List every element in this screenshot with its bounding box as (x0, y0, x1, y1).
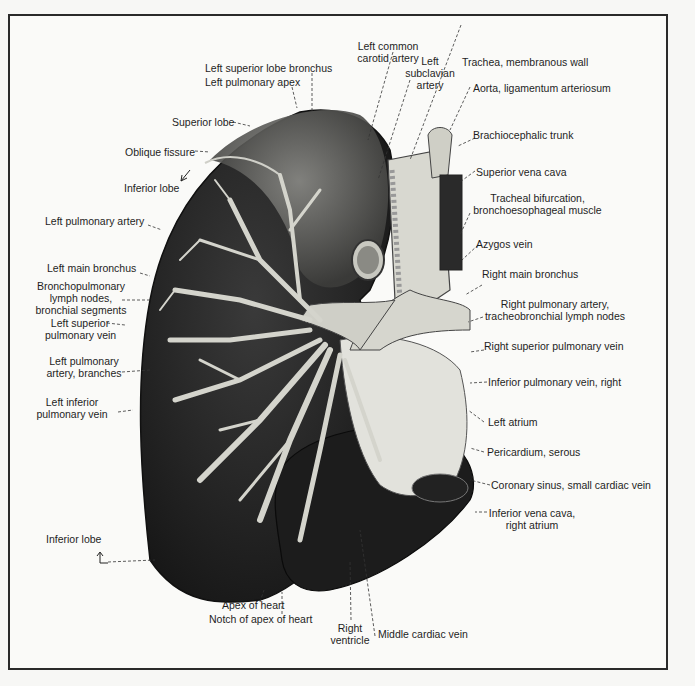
label-brachiocephalic-trunk: Brachiocephalic trunk (473, 129, 573, 141)
label-left-atrium: Left atrium (488, 416, 538, 428)
arrow-icon (97, 552, 108, 563)
label-inferior-lobe-bottom: Inferior lobe (46, 533, 101, 545)
brachiocephalic-trunk (428, 128, 452, 179)
label-line: Left pulmonary (44, 355, 124, 367)
label-line: bronchial segments (35, 304, 127, 316)
label-line: Left (405, 55, 455, 67)
label-line: Bronchopulmonary (35, 280, 127, 292)
label-line: tracheobronchial lymph nodes (483, 310, 627, 322)
label-line: subclavian (405, 67, 455, 79)
label-inferior-pulmonary-vein-right: Inferior pulmonary vein, right (488, 376, 621, 388)
label-azygos-vein: Azygos vein (476, 238, 533, 250)
inferior-vena-cava (412, 474, 468, 502)
label-line: lymph nodes, (35, 292, 127, 304)
label-tracheal-bifurcation: Tracheal bifurcation, bronchoesophageal … (470, 192, 605, 216)
label-left-superior-lobe-bronchus: Left superior lobe bronchus (205, 62, 332, 74)
label-right-ventricle: Right ventricle (326, 622, 374, 646)
label-line: artery, branches (44, 367, 124, 379)
label-line: pulmonary vein (33, 408, 111, 420)
label-line: Right (326, 622, 374, 634)
label-inferior-lobe-top: Inferior lobe (124, 182, 179, 194)
label-left-superior-pulmonary-vein: Left superior pulmonary vein (45, 317, 115, 341)
label-oblique-fissure: Oblique fissure (125, 146, 195, 158)
label-right-superior-pulmonary-vein: Right superior pulmonary vein (484, 340, 623, 352)
label-line: pulmonary vein (45, 329, 115, 341)
label-line: Left common (348, 40, 428, 52)
label-line: artery (405, 79, 455, 91)
arrow-icon (181, 170, 190, 181)
label-line: Tracheal bifurcation, (470, 192, 605, 204)
label-left-main-bronchus: Left main bronchus (47, 262, 136, 274)
label-left-inferior-pulmonary-vein: Left inferior pulmonary vein (33, 396, 111, 420)
label-trachea: Trachea, membranous wall (462, 56, 588, 68)
label-coronary-sinus: Coronary sinus, small cardiac vein (491, 479, 651, 491)
label-aorta: Aorta, ligamentum arteriosum (473, 82, 611, 94)
label-left-pulmonary-artery-branches: Left pulmonary artery, branches (44, 355, 124, 379)
label-line: Right pulmonary artery, (483, 298, 627, 310)
label-pericardium: Pericardium, serous (487, 446, 580, 458)
label-notch-of-apex: Notch of apex of heart (209, 613, 312, 625)
label-right-main-bronchus: Right main bronchus (482, 268, 578, 280)
label-left-pulmonary-artery: Left pulmonary artery (45, 215, 144, 227)
label-left-pulmonary-apex: Left pulmonary apex (205, 76, 300, 88)
label-line: Left inferior (33, 396, 111, 408)
superior-vena-cava (440, 175, 462, 270)
label-line: Inferior vena cava, (488, 507, 576, 519)
label-line: ventricle (326, 634, 374, 646)
label-apex-of-heart: Apex of heart (222, 599, 284, 611)
label-inferior-vena-cava: Inferior vena cava, right atrium (488, 507, 576, 531)
label-left-subclavian-artery: Left subclavian artery (405, 55, 455, 91)
label-line: right atrium (488, 519, 576, 531)
label-superior-vena-cava: Superior vena cava (476, 166, 566, 178)
label-bronchopulmonary-lymph-nodes: Bronchopulmonary lymph nodes, bronchial … (35, 280, 127, 316)
label-line: bronchoesophageal muscle (470, 204, 605, 216)
label-line: Left superior (45, 317, 115, 329)
label-superior-lobe: Superior lobe (172, 116, 234, 128)
label-right-pulmonary-artery: Right pulmonary artery, tracheobronchial… (483, 298, 627, 322)
label-middle-cardiac-vein: Middle cardiac vein (378, 628, 468, 640)
